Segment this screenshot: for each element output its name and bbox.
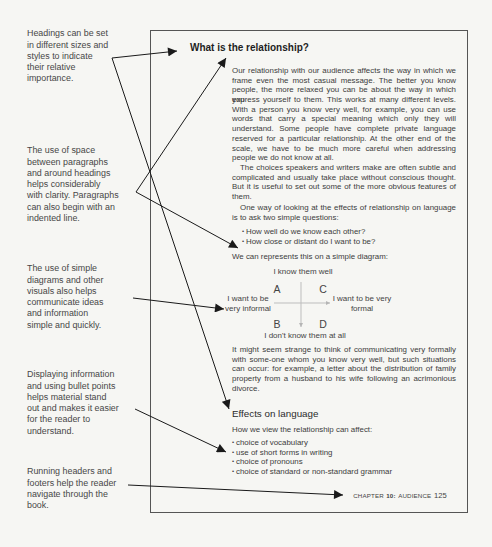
page-heading: What is the relationship? bbox=[190, 42, 309, 54]
text-line: property from a husband to his wife foll… bbox=[232, 374, 456, 384]
annotation-spacing: The use of space between paragraphs and … bbox=[27, 145, 137, 224]
text-line: But it is useful to set out some of the … bbox=[232, 182, 456, 192]
text-line: complicated and usually take place witho… bbox=[232, 173, 456, 183]
text-line: is to ask two simple questions: bbox=[232, 213, 456, 223]
list-item: •choice of pronouns bbox=[232, 457, 456, 467]
diagram-top-label: I know them well bbox=[253, 267, 353, 277]
diagram-right-label: I want to be very formal bbox=[326, 294, 398, 313]
list-item: •How well do we know each other? bbox=[242, 227, 442, 237]
text-line: words that carry a special meaning which… bbox=[232, 114, 456, 124]
footer-page-number: 125 bbox=[434, 491, 447, 500]
text-line: with some-one whom you know very well, b… bbox=[232, 355, 456, 365]
text-line: people we do not know at all. bbox=[232, 153, 456, 163]
footer-chapter-number: 10: bbox=[386, 492, 395, 499]
text-line: With a person you know very well, for ex… bbox=[232, 105, 456, 115]
text-line: One way of looking at the effects of rel… bbox=[232, 203, 456, 213]
text-line: frame even the most casual message. The … bbox=[232, 76, 456, 86]
text-line: understand. Some people have complete pr… bbox=[232, 124, 456, 134]
quadrant-b: B bbox=[271, 318, 283, 330]
effects-intro: How we view the relationship can affect: bbox=[232, 425, 456, 435]
list-item: •How close or distant do I want to be? bbox=[242, 237, 442, 247]
text-line: scale, we have to be much more careful w… bbox=[232, 144, 456, 154]
text-line: can occur: for example, a letter about t… bbox=[232, 364, 456, 374]
annotation-bullets: Displaying information and using bullet … bbox=[27, 369, 137, 437]
text-line: people, the more relaxed you can be abou… bbox=[232, 85, 456, 95]
diagram-left-label: I want to be very informal bbox=[214, 294, 282, 313]
annotation-headers-footers: Running headers and footers help the rea… bbox=[27, 466, 137, 511]
annotation-headings: Headings can be set in different sizes a… bbox=[27, 28, 137, 84]
footer-chapter-title: AUDIENCE bbox=[398, 492, 431, 499]
subheading: Effects on language bbox=[232, 408, 318, 420]
list-item: •choice of standard or non-standard gram… bbox=[232, 467, 456, 477]
running-footer: CHAPTER10:AUDIENCE125 bbox=[351, 491, 447, 500]
diagram-intro: We can represents this on a simple diagr… bbox=[232, 252, 456, 262]
text-line: them. bbox=[232, 192, 456, 202]
text-line: divorce. bbox=[232, 384, 456, 394]
text-line: Our relationship with our audience affec… bbox=[232, 66, 456, 76]
annotation-diagrams: The use of simple diagrams and other vis… bbox=[27, 263, 137, 331]
questions-list: •How well do we know each other? •How cl… bbox=[242, 227, 442, 246]
paragraph-2: The choices speakers and writers make ar… bbox=[232, 163, 456, 202]
text-line: It might seem strange to think of commun… bbox=[232, 345, 456, 355]
text-line: The choices speakers and writers make ar… bbox=[232, 163, 456, 173]
text-line: express yourself to them. This works at … bbox=[232, 95, 456, 105]
paragraph-3: One way of looking at the effects of rel… bbox=[232, 203, 456, 222]
footer-chapter-label: CHAPTER bbox=[353, 492, 384, 499]
effects-list: •choice of vocabulary •use of short form… bbox=[232, 438, 456, 477]
paragraph-4: It might seem strange to think of commun… bbox=[232, 345, 456, 393]
paragraph-1: Our relationship with our audience affec… bbox=[232, 66, 456, 163]
list-item: •choice of vocabulary bbox=[232, 438, 456, 448]
text-line: reserved for a particular relationship. … bbox=[232, 134, 456, 144]
quadrant-d: D bbox=[317, 318, 329, 330]
diagram-bottom-label: I don't know them at all bbox=[255, 331, 355, 341]
list-item: •use of short forms in writing bbox=[232, 448, 456, 458]
